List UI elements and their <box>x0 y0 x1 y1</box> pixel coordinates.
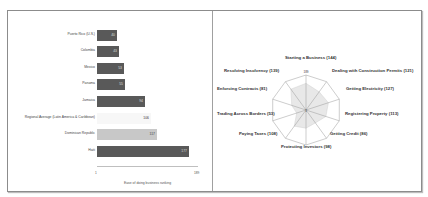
x-axis-line <box>97 166 198 167</box>
radar-label-paying-taxes: Paying Taxes (108) <box>239 131 277 136</box>
bar-value: 53 <box>118 66 122 70</box>
radar-label-construction-permits: Dealing with Construction Permits (121) <box>332 68 413 73</box>
ranking-bar-chart: Puerto Rico (U.S.) 40 Colombia 43 Mexico… <box>8 11 212 191</box>
bar: 117 <box>97 129 157 140</box>
x-tick-min: 1 <box>95 171 97 175</box>
bar-label: Haiti <box>88 148 95 152</box>
bar: 53 <box>97 63 124 74</box>
bar-label: Regional Average (Latin America & Caribb… <box>25 115 95 119</box>
bar-row: Regional Average (Latin America & Caribb… <box>8 113 212 124</box>
bar-row: Jamaica 94 <box>8 96 212 107</box>
bar-row: Puerto Rico (U.S.) 40 <box>8 30 212 41</box>
bar-row: Mexico 53 <box>8 63 212 74</box>
bar: 55 <box>97 79 125 90</box>
bar-value: 55 <box>119 82 123 86</box>
svg-text:189: 189 <box>303 70 308 74</box>
bar-row: Panama 55 <box>8 79 212 90</box>
bar-label: Mexico <box>84 65 95 69</box>
bar: 43 <box>97 46 119 57</box>
radar-label-protecting-investors: Protecting Investors (98) <box>281 144 331 149</box>
bar-value: 117 <box>150 132 155 136</box>
bar: 40 <box>97 30 117 41</box>
radar-chart: 1 189 Starting a Business (144) Dealing … <box>213 11 421 191</box>
bar: 177 <box>97 146 189 157</box>
radar-label-electricity: Getting Electricity (127) <box>346 86 394 91</box>
radar-label-starting-business: Starting a Business (144) <box>285 55 336 60</box>
bar-row: Dominican Republic 117 <box>8 129 212 140</box>
bar-value: 94 <box>139 99 143 103</box>
x-axis-title: Ease of doing business ranking <box>97 181 198 185</box>
bar-label: Panama <box>82 81 95 85</box>
bar-value: 106 <box>143 116 149 120</box>
bar: 106 <box>97 113 151 124</box>
bar-label: Colombia <box>81 48 95 52</box>
radar-label-getting-credit: Getting Credit (86) <box>330 131 367 136</box>
bar-row: Haiti 177 <box>8 146 212 157</box>
bar-value: 177 <box>181 149 187 153</box>
x-tick-max: 189 <box>194 171 199 175</box>
bar: 94 <box>97 96 145 107</box>
chart-frame: Puerto Rico (U.S.) 40 Colombia 43 Mexico… <box>7 10 422 192</box>
radar-label-registering-property: Registering Property (113) <box>345 111 399 116</box>
radar-label-resolving-insolvency: Resolving Insolvency (139) <box>224 68 279 73</box>
bar-label: Puerto Rico (U.S.) <box>67 32 95 36</box>
bar-label: Dominican Republic <box>65 131 95 135</box>
radar-plot: 1 189 <box>213 11 421 191</box>
bar-label: Jamaica <box>82 98 95 102</box>
radar-label-trading-borders: Trading Across Borders (53) <box>217 111 275 116</box>
bar-value: 43 <box>113 49 117 53</box>
radar-label-enforcing-contracts: Enforcing Contracts (81) <box>217 86 267 91</box>
bar-value: 40 <box>111 33 115 37</box>
bar-row: Colombia 43 <box>8 46 212 57</box>
